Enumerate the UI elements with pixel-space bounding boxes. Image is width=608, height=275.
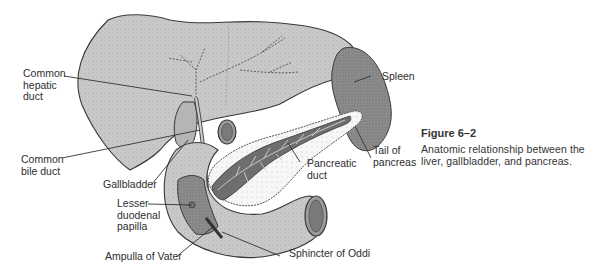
- figure-caption: Figure 6–2 Anatomic relationship between…: [421, 127, 606, 167]
- anatomy-figure: Common hepatic duct Common bile duct Gal…: [0, 0, 608, 275]
- label-gallbladder: Gallbladder: [103, 179, 157, 191]
- label-lesser-duodenal-papilla: Lesser duodenal papilla: [117, 198, 160, 233]
- label-tail-of-pancreas: Tail of pancreas: [373, 145, 416, 168]
- label-common-bile-duct: Common bile duct: [21, 154, 64, 177]
- label-ampulla-of-vater: Ampulla of Vater: [105, 251, 182, 263]
- figure-number: Figure 6–2: [421, 127, 606, 139]
- label-spleen: Spleen: [382, 71, 415, 83]
- label-sphincter-of-oddi: Sphincter of Oddi: [289, 248, 370, 260]
- label-pancreatic-duct: Pancreatic duct: [307, 158, 357, 181]
- figure-caption-text: Anatomic relationship between the liver,…: [421, 143, 606, 167]
- label-common-hepatic-duct: Common hepatic duct: [23, 68, 66, 103]
